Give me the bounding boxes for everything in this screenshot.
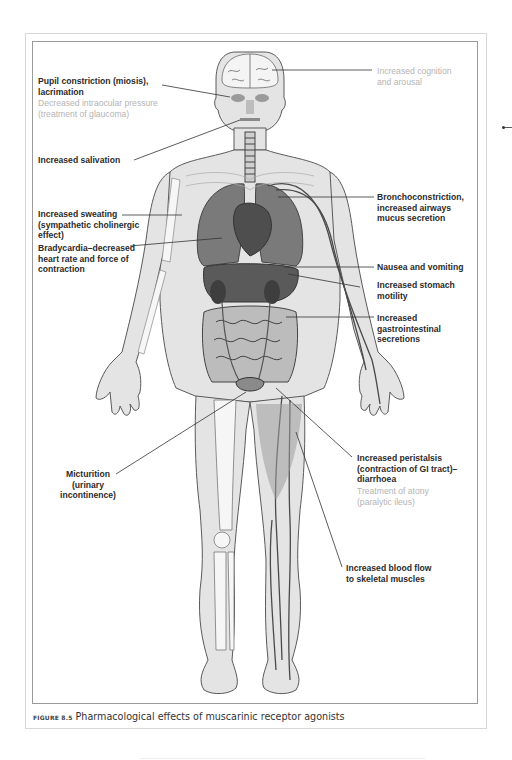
label-gi-secretions: Increased gastrointestinal secretions (377, 313, 441, 345)
figure-caption-text: Pharmacological effects of muscarinic re… (76, 711, 345, 722)
label-salivation: Increased salivation (38, 155, 120, 166)
label-nausea: Nausea and vomiting (377, 262, 463, 273)
label-stomach-motility: Increased stomach motility (377, 280, 455, 301)
label-atony-treatment: Treatment of atony (paralytic ileus) (357, 486, 429, 507)
bladder (236, 378, 264, 392)
label-bronchoconstriction: Bronchoconstriction, increased airways m… (377, 192, 464, 224)
right-kidney (264, 280, 280, 304)
label-blood-flow: Increased blood flow to skeletal muscles (346, 563, 431, 584)
label-bradycardia: Bradycardia–decreased heart rate and for… (38, 243, 135, 275)
bottom-divider (140, 758, 425, 759)
intestines (202, 306, 297, 382)
edge-pointer-icon (502, 126, 512, 129)
figure-number: FIGURE 8.5 (33, 714, 73, 721)
label-sweating: Increased sweating (sympathetic choliner… (38, 209, 139, 241)
left-kidney (210, 280, 226, 304)
figure-caption: FIGURE 8.5Pharmacological effects of mus… (33, 711, 345, 722)
trachea (245, 132, 255, 182)
label-intraocular-pressure: Decreased intraocular pressure (treatmen… (38, 98, 158, 119)
label-pupil-constriction: Pupil constriction (miosis), lacrimation (38, 76, 148, 97)
label-peristalsis: Increased peristalsis (contraction of GI… (357, 453, 457, 485)
label-cognition: Increased cognition and arousal (377, 66, 452, 87)
label-micturition: Micturition (urinary incontinence) (60, 469, 116, 501)
